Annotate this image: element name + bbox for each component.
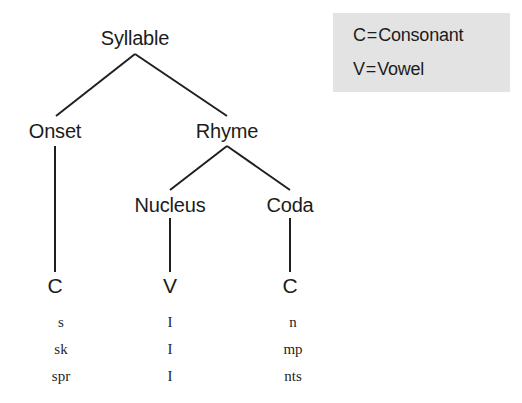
example-onset-row-3: spr bbox=[52, 369, 70, 384]
legend-equals-c: = bbox=[367, 25, 377, 45]
legend-meaning-vowel: Vowel bbox=[377, 59, 424, 79]
example-onset-row-2: sk bbox=[54, 342, 67, 357]
example-coda-row-1: n bbox=[289, 315, 297, 330]
node-onset: Onset bbox=[29, 121, 81, 141]
example-coda-row-2: mp bbox=[283, 342, 302, 357]
edge-rhyme-coda bbox=[227, 146, 290, 190]
edge-syllable-rhyme bbox=[135, 54, 227, 116]
example-nucleus-row-3: I bbox=[168, 369, 173, 384]
node-terminal-coda-c: C bbox=[283, 275, 298, 296]
example-onset-row-1: s bbox=[58, 315, 64, 330]
legend-entry-consonant: C=Consonant bbox=[353, 26, 510, 44]
legend-meaning-consonant: Consonant bbox=[378, 25, 463, 45]
example-nucleus-row-1: I bbox=[168, 315, 173, 330]
node-rhyme: Rhyme bbox=[196, 121, 258, 141]
node-syllable: Syllable bbox=[101, 28, 169, 48]
legend-equals-v: = bbox=[366, 59, 376, 79]
node-terminal-onset-c: C bbox=[48, 275, 63, 296]
node-nucleus: Nucleus bbox=[135, 195, 206, 215]
edge-rhyme-nucleus bbox=[170, 146, 227, 190]
node-coda: Coda bbox=[266, 195, 313, 215]
example-nucleus-row-2: I bbox=[168, 342, 173, 357]
syllable-tree-diagram: Syllable Onset Rhyme Nucleus Coda C V C … bbox=[0, 0, 522, 403]
legend-box: C=Consonant V=Vowel bbox=[333, 13, 510, 92]
edge-syllable-onset bbox=[56, 54, 135, 116]
legend-entry-vowel: V=Vowel bbox=[353, 60, 510, 78]
legend-symbol-c: C bbox=[353, 25, 366, 45]
node-terminal-nucleus-v: V bbox=[163, 275, 177, 296]
example-coda-row-3: nts bbox=[284, 369, 302, 384]
legend-symbol-v: V bbox=[353, 59, 365, 79]
